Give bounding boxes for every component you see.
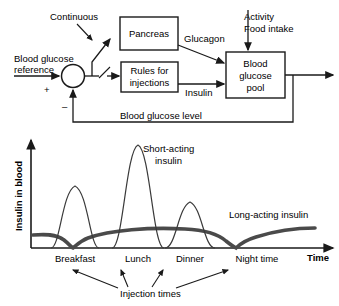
block-rules-label-line1: Rules for (130, 65, 168, 76)
block-pool-label-line1: Blood (243, 58, 267, 69)
long-acting-insulin-annotation: Long-acting insulin (229, 209, 308, 220)
glucagon-arrow (178, 45, 224, 63)
block-pool-label-line3: pool (247, 82, 265, 93)
injection-arrow-lunch (121, 270, 128, 287)
continuous-label: Continuous (50, 11, 98, 22)
injection-times-annotation: Injection times (120, 288, 181, 299)
disturbance-label-line2: Food intake (244, 23, 294, 34)
chart-x-axis-label: Time (307, 252, 329, 263)
injection-arrow-breakfast (73, 270, 118, 288)
summing-junction (62, 65, 85, 88)
chart-x-tick-dinner: Dinner (176, 253, 204, 264)
block-pancreas-label: Pancreas (129, 28, 169, 39)
short-acting-insulin-annotation-line1: Short-acting (143, 143, 194, 154)
block-rules-label-line2: injections (130, 77, 170, 88)
reference-label-line2: reference (14, 64, 54, 75)
chart-x-tick-lunch: Lunch (125, 253, 151, 264)
injection-arrow-night-time (176, 270, 228, 288)
feedback-label: Blood glucose level (120, 110, 202, 121)
continuous-arrow (77, 24, 92, 40)
figure-container: Pancreas Rules for injections Blood gluc… (0, 0, 339, 306)
short-acting-peak-dinner (165, 202, 215, 248)
short-acting-insulin-annotation-line2: insulin (155, 155, 182, 166)
injection-arrow-dinner (152, 270, 163, 287)
insulin-label: Insulin (185, 87, 212, 98)
glucagon-label: Glucagon (184, 33, 225, 44)
reference-label-line1: Blood glucose (14, 53, 74, 64)
block-pool-label-line2: glucose (239, 70, 272, 81)
chart-x-tick-night-time: Night time (236, 253, 279, 264)
minus-sign-label: – (62, 101, 68, 112)
chart-x-tick-breakfast: Breakfast (55, 253, 95, 264)
chart-y-axis-label: Insulin in blood (13, 161, 24, 231)
plus-sign-label: + (44, 84, 50, 95)
